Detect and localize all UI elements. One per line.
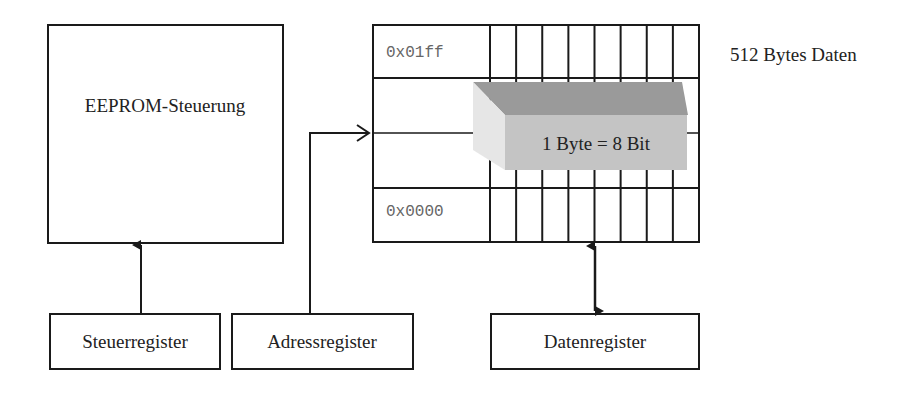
control-register-label: Steuerregister	[82, 331, 188, 352]
address-register-box: Adressregister	[232, 314, 413, 369]
address-register-label: Adressregister	[267, 331, 377, 352]
eeprom-controller-label: EEPROM-Steuerung	[85, 95, 246, 116]
byte-callout-3d-box: 1 Byte = 8 Bit	[473, 82, 688, 170]
address-to-memory-arrow	[310, 125, 369, 314]
memory-size-label: 512 Bytes Daten	[730, 44, 857, 65]
address-high-label: 0x01ff	[386, 44, 444, 62]
data-register-box: Datenregister	[491, 314, 699, 369]
control-register-box: Steuerregister	[50, 314, 220, 369]
byte-box-top-face	[473, 82, 688, 115]
address-low-label: 0x0000	[386, 203, 444, 221]
eeprom-controller-box: EEPROM-Steuerung	[48, 25, 283, 243]
eeprom-diagram: EEPROM-Steuerung 0x01ff 0x0000 1 Byte = …	[0, 0, 924, 400]
byte-callout-label: 1 Byte = 8 Bit	[542, 133, 651, 154]
data-register-label: Datenregister	[544, 331, 647, 352]
